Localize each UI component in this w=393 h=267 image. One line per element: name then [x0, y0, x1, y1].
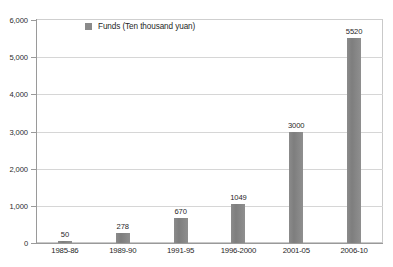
y-axis-tick-label: 1,000 — [0, 201, 28, 210]
bar — [289, 132, 303, 244]
legend-swatch-icon — [85, 23, 92, 30]
bar — [58, 241, 72, 243]
bar — [174, 218, 188, 243]
y-axis-tick-label: 0 — [0, 239, 28, 248]
legend-item-label: Funds (Ten thousand yuan) — [98, 22, 195, 31]
gridline-4000 — [36, 94, 383, 95]
y-axis-tick-label: 6,000 — [0, 16, 28, 25]
gridline-3000 — [36, 132, 383, 133]
x-axis-category-label: 2006-10 — [320, 246, 388, 255]
bar — [347, 38, 361, 243]
bar-value-label: 5520 — [324, 27, 384, 36]
gridline-2000 — [36, 169, 383, 170]
chart-legend: Funds (Ten thousand yuan) — [85, 22, 195, 31]
y-axis-tick-label: 5,000 — [0, 53, 28, 62]
bar-value-label: 278 — [93, 222, 153, 231]
bar-value-label: 3000 — [266, 121, 326, 130]
bar-value-label: 1049 — [208, 193, 268, 202]
y-axis-line — [36, 19, 37, 243]
bar — [231, 204, 245, 243]
y-axis-tick-label: 2,000 — [0, 164, 28, 173]
bar-value-label: 670 — [151, 207, 211, 216]
y-axis-tick-label: 4,000 — [0, 90, 28, 99]
bar-value-label: 50 — [35, 230, 95, 239]
chart-container: China's Five-Year Plan to the Eleventh F… — [0, 0, 393, 267]
bar — [116, 233, 130, 243]
y-tick-0 — [31, 243, 36, 244]
gridline-5000 — [36, 57, 383, 58]
chart-title: China's Five-Year Plan to the Eleventh F… — [2, 0, 391, 3]
y-axis-tick-label: 3,000 — [0, 127, 28, 136]
gridline-0 — [36, 243, 383, 244]
